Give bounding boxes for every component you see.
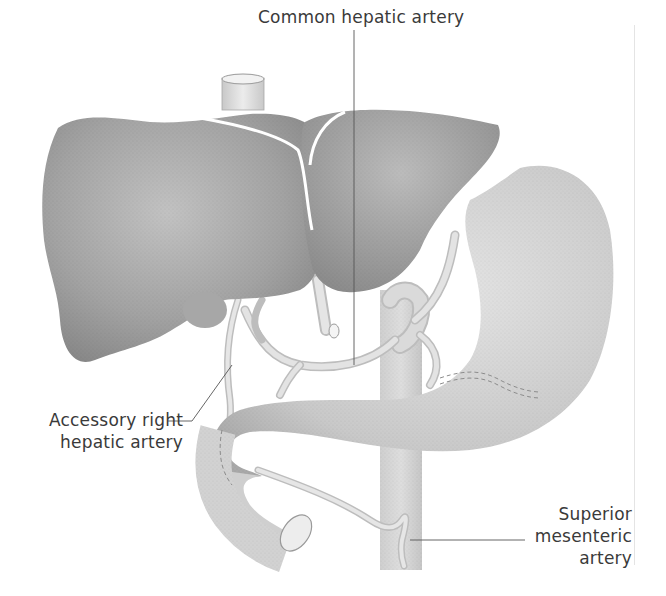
liver bbox=[42, 110, 500, 362]
label-line: Superior bbox=[520, 503, 632, 525]
page-margin-rule bbox=[634, 25, 635, 565]
label-accessory-right-hepatic-artery: Accessory right hepatic artery bbox=[33, 409, 183, 453]
label-superior-mesenteric-artery: Superior mesenteric artery bbox=[520, 503, 632, 569]
label-line: mesenteric bbox=[520, 525, 632, 547]
label-line: Accessory right bbox=[33, 409, 183, 431]
duodenum bbox=[212, 430, 318, 557]
label-line: artery bbox=[520, 547, 632, 569]
label-line: hepatic artery bbox=[33, 431, 183, 453]
inferior-vena-cava bbox=[222, 74, 264, 110]
label-common-hepatic-artery: Common hepatic artery bbox=[258, 6, 464, 28]
